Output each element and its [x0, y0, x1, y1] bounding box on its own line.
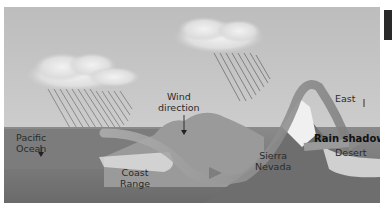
label-coast-range: Coast Range	[120, 167, 150, 189]
rain-shadow-diagram: Pacific Ocean Wind direction Coast Range…	[4, 7, 380, 203]
sierra-label-line2: Nevada	[255, 161, 291, 172]
cloud-right	[174, 17, 264, 53]
pacific-label-line1: Pacific	[16, 132, 46, 143]
label-pacific-ocean: Pacific Ocean	[16, 132, 46, 154]
label-wind-direction: Wind direction	[158, 91, 200, 113]
label-sierra-nevada: Sierra Nevada	[255, 150, 291, 172]
label-east: East	[335, 93, 356, 104]
coast-label-line1: Coast	[120, 167, 150, 178]
pacific-label-line2: Ocean	[16, 143, 46, 154]
wind-label-line2: direction	[158, 102, 200, 113]
sierra-label-line1: Sierra	[255, 150, 291, 161]
wind-label-line1: Wind	[158, 91, 200, 102]
side-bar-marker	[384, 10, 392, 40]
label-desert: Desert	[335, 147, 367, 158]
label-rain-shadow: Rain shadow	[314, 133, 380, 144]
coast-label-line2: Range	[120, 178, 150, 189]
